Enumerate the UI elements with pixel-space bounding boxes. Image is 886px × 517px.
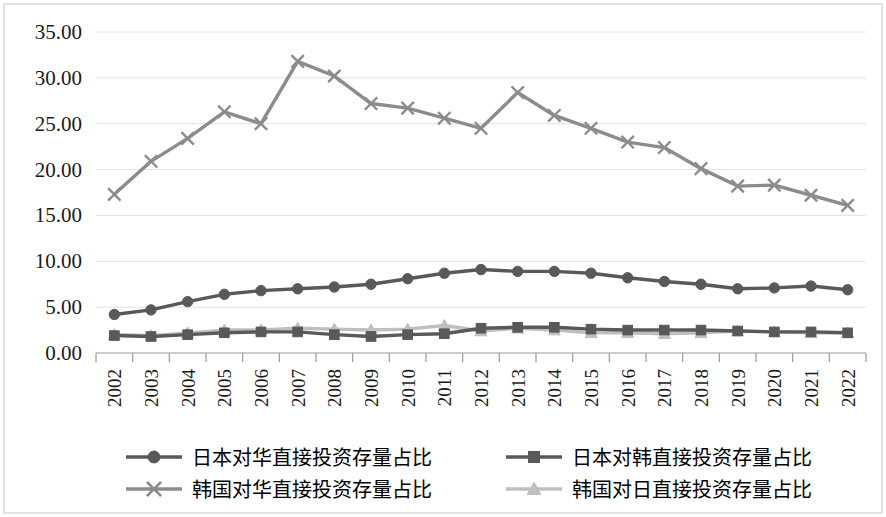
data-point-marker-square xyxy=(586,324,596,334)
y-axis-tick-label: 10.00 xyxy=(35,249,82,273)
x-axis xyxy=(96,353,866,362)
x-axis-tick-label: 2014 xyxy=(544,369,565,408)
x-axis-tick-label: 2002 xyxy=(104,369,125,407)
data-point-marker-circle xyxy=(842,285,852,295)
y-axis-tick-label: 30.00 xyxy=(35,66,82,90)
x-axis-tick-label: 2006 xyxy=(251,369,272,407)
data-point-marker-circle xyxy=(439,268,449,278)
line-chart: 0.005.0010.0015.0020.0025.0030.0035.00 2… xyxy=(0,0,886,517)
data-point-marker-square xyxy=(330,330,340,340)
data-series xyxy=(109,264,853,319)
legend-item[interactable]: 韩国对华直接投资存量占比 xyxy=(126,478,432,502)
data-point-marker-circle xyxy=(659,276,669,286)
data-point-marker-square xyxy=(513,323,523,333)
chart-legend: 日本对华直接投资存量占比日本对韩直接投资存量占比韩国对华直接投资存量占比韩国对日… xyxy=(126,446,812,502)
x-axis-tick-label: 2019 xyxy=(728,369,749,407)
y-axis-tick-label: 0.00 xyxy=(45,341,82,365)
data-point-marker-square xyxy=(528,451,539,462)
legend-label: 日本对韩直接投资存量占比 xyxy=(572,446,812,470)
data-point-marker-circle xyxy=(148,451,160,463)
data-point-marker-square xyxy=(550,323,560,333)
x-axis-tick-label: 2004 xyxy=(178,369,199,408)
legend-label: 日本对华直接投资存量占比 xyxy=(192,446,432,470)
y-axis-tick-label: 5.00 xyxy=(45,295,82,319)
data-point-marker-circle xyxy=(512,266,522,276)
x-axis-tick-label: 2022 xyxy=(838,369,859,407)
data-point-marker-x xyxy=(145,155,157,167)
x-axis-tick-label: 2013 xyxy=(508,369,529,407)
data-point-marker-circle xyxy=(182,296,192,306)
x-axis-tick-label: 2016 xyxy=(618,369,639,407)
data-point-marker-square xyxy=(660,325,670,335)
x-axis-tick-label: 2003 xyxy=(141,369,162,407)
data-series xyxy=(110,323,853,342)
data-point-marker-square xyxy=(146,332,156,342)
legend-label: 韩国对日直接投资存量占比 xyxy=(572,478,812,502)
x-axis-tick-label: 2011 xyxy=(434,369,455,406)
x-axis-tick-label: 2020 xyxy=(764,369,785,407)
x-axis-tick-label: 2010 xyxy=(398,369,419,407)
data-point-marker-circle xyxy=(586,268,596,278)
data-point-marker-square xyxy=(733,326,743,336)
x-axis-tick-label: 2018 xyxy=(691,369,712,407)
chart-container: 0.005.0010.0015.0020.0025.0030.0035.00 2… xyxy=(0,0,886,517)
x-axis-tick-label: 2009 xyxy=(361,369,382,407)
data-point-marker-square xyxy=(806,327,816,337)
data-point-marker-circle xyxy=(219,289,229,299)
data-point-marker-x xyxy=(511,86,523,98)
data-point-marker-square xyxy=(183,330,193,340)
x-axis-tick-label: 2007 xyxy=(288,369,309,407)
data-point-marker-circle xyxy=(329,282,339,292)
data-point-marker-square xyxy=(403,330,413,340)
data-point-marker-circle xyxy=(292,284,302,294)
data-point-marker-circle xyxy=(806,281,816,291)
data-point-marker-circle xyxy=(256,285,266,295)
data-point-marker-square xyxy=(623,325,633,335)
legend-label: 韩国对华直接投资存量占比 xyxy=(192,478,432,502)
chart-outer-border xyxy=(4,4,882,513)
legend-item[interactable]: 日本对华直接投资存量占比 xyxy=(126,446,432,470)
data-series-group xyxy=(108,55,854,341)
y-axis-tick-labels: 0.005.0010.0015.0020.0025.0030.0035.00 xyxy=(35,20,82,365)
data-point-marker-circle xyxy=(109,309,119,319)
data-point-marker-circle xyxy=(476,264,486,274)
y-axis-tick-label: 25.00 xyxy=(35,112,82,136)
data-point-marker-square xyxy=(220,328,230,338)
data-series xyxy=(108,55,854,211)
data-point-marker-x xyxy=(695,162,707,174)
data-point-marker-circle xyxy=(769,283,779,293)
data-point-marker-circle xyxy=(549,266,559,276)
x-axis-tick-label: 2005 xyxy=(214,369,235,407)
data-point-marker-square xyxy=(256,327,266,337)
data-point-marker-square xyxy=(110,331,120,341)
x-axis-tick-label: 2017 xyxy=(654,369,675,407)
data-point-marker-circle xyxy=(366,279,376,289)
y-axis-tick-label: 20.00 xyxy=(35,158,82,182)
legend-item[interactable]: 韩国对日直接投资存量占比 xyxy=(506,478,812,502)
data-point-marker-x xyxy=(181,132,193,144)
data-point-marker-square xyxy=(440,329,450,339)
data-point-marker-square xyxy=(476,323,486,333)
data-point-marker-circle xyxy=(696,279,706,289)
y-axis-tick-label: 15.00 xyxy=(35,203,82,227)
data-point-marker-square xyxy=(770,327,780,337)
data-point-marker-x xyxy=(108,188,120,200)
y-axis-tick-label: 35.00 xyxy=(35,20,82,44)
data-point-marker-circle xyxy=(622,273,632,283)
data-point-marker-circle xyxy=(146,305,156,315)
data-point-marker-square xyxy=(696,325,706,335)
legend-item[interactable]: 日本对韩直接投资存量占比 xyxy=(506,446,812,470)
data-point-marker-square xyxy=(366,332,376,342)
x-axis-tick-label: 2012 xyxy=(471,369,492,407)
x-axis-tick-label: 2021 xyxy=(801,369,822,407)
series-line xyxy=(114,61,847,205)
x-axis-tick-labels: 2002200320042005200620072008200920102011… xyxy=(104,369,858,408)
data-point-marker-square xyxy=(293,327,303,337)
x-axis-tick-label: 2008 xyxy=(324,369,345,407)
data-point-marker-circle xyxy=(402,274,412,284)
data-point-marker-circle xyxy=(732,284,742,294)
x-axis-tick-label: 2015 xyxy=(581,369,602,407)
data-point-marker-square xyxy=(843,328,853,338)
